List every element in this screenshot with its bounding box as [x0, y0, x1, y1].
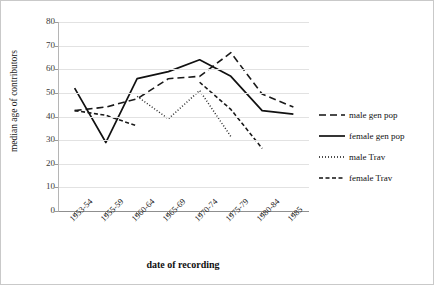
y-axis-title: median age of contributors: [9, 26, 19, 176]
y-tick-label-80: 80: [31, 17, 55, 26]
y-tick-mark-0: [54, 211, 58, 212]
y-tick-mark-70: [54, 46, 58, 47]
y-tick-label-30: 30: [31, 135, 55, 144]
series-line-male-gen-pop: [75, 53, 294, 111]
legend-item-male-gen-pop[interactable]: male gen pop: [319, 104, 431, 125]
gridline-60: [59, 69, 309, 70]
gridline-20: [59, 164, 309, 165]
y-tick-mark-20: [54, 164, 58, 165]
y-tick-label-70: 70: [31, 41, 55, 50]
y-tick-label-50: 50: [31, 88, 55, 97]
gridline-30: [59, 140, 309, 141]
legend-label: female Trav: [349, 173, 392, 183]
legend-swatch-icon: [319, 173, 345, 183]
y-axis-tick-labels: 80706050403020100: [27, 1, 55, 285]
legend-swatch-icon: [319, 131, 345, 141]
y-tick-label-60: 60: [31, 64, 55, 73]
gridline-10: [59, 187, 309, 188]
legend-item-male-trav[interactable]: male Trav: [319, 146, 431, 167]
y-tick-label-40: 40: [31, 112, 55, 121]
chart-legend: male gen popfemale gen popmale Travfemal…: [319, 104, 431, 188]
legend-label: male Trav: [349, 152, 385, 162]
legend-swatch-icon: [319, 110, 345, 120]
gridline-80: [59, 22, 309, 23]
y-tick-mark-80: [54, 22, 58, 23]
legend-swatch-icon: [319, 152, 345, 162]
gridline-40: [59, 117, 309, 118]
legend-label: female gen pop: [349, 131, 404, 141]
gridline-70: [59, 46, 309, 47]
y-tick-label-10: 10: [31, 182, 55, 191]
legend-item-female-trav[interactable]: female Trav: [319, 167, 431, 188]
y-tick-mark-10: [54, 187, 58, 188]
gridline-50: [59, 93, 309, 94]
y-tick-mark-40: [54, 117, 58, 118]
y-tick-label-20: 20: [31, 159, 55, 168]
x-axis-title: date of recording: [58, 259, 308, 270]
y-tick-label-0: 0: [31, 206, 55, 215]
plot-area: [58, 22, 309, 212]
series-line-female-gen-pop: [75, 60, 294, 143]
y-tick-mark-30: [54, 140, 58, 141]
y-tick-mark-60: [54, 69, 58, 70]
legend-item-female-gen-pop[interactable]: female gen pop: [319, 125, 431, 146]
chart-figure: 80706050403020100 median age of contribu…: [0, 0, 434, 285]
y-tick-mark-50: [54, 93, 58, 94]
legend-label: male gen pop: [349, 110, 398, 120]
series-line-female-trav: [75, 111, 138, 126]
